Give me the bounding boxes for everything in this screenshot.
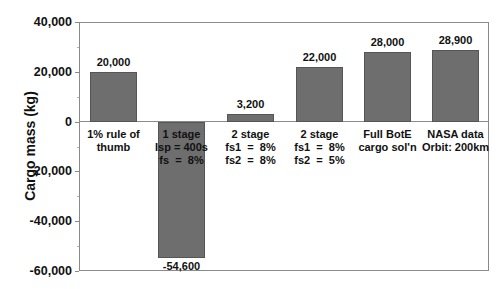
- y-tick-mark: [75, 221, 79, 222]
- y-minor-tick: [77, 97, 79, 98]
- bar-value-label: 20,000: [74, 56, 154, 68]
- bar-value-label: 22,000: [280, 51, 360, 63]
- y-tick-label: -60,000: [30, 264, 72, 278]
- zero-baseline: [79, 121, 489, 122]
- y-tick-mark: [75, 22, 79, 23]
- bar-value-label: -54,600: [142, 260, 222, 272]
- bar-value-label: 3,200: [211, 98, 291, 110]
- y-minor-tick: [77, 246, 79, 247]
- bar-chart: Cargo mass (kg) 40,00020,0000-20,000-40,…: [0, 0, 503, 289]
- y-tick-label: -20,000: [30, 164, 72, 178]
- y-tick-label: 40,000: [34, 15, 72, 29]
- y-tick-mark: [75, 171, 79, 172]
- y-tick-mark: [75, 72, 79, 73]
- y-minor-tick: [77, 47, 79, 48]
- y-tick-mark: [75, 271, 79, 272]
- bar: [364, 52, 411, 122]
- y-tick-mark: [75, 122, 79, 123]
- y-axis-label: Cargo mass (kg): [22, 86, 38, 206]
- bar-value-label: 28,900: [416, 34, 496, 46]
- bar: [227, 114, 274, 122]
- y-minor-tick: [77, 196, 79, 197]
- bar: [296, 67, 343, 122]
- category-label: 1 stage Isp = 400s fs = 8%: [142, 128, 222, 167]
- bar: [90, 72, 137, 122]
- bar: [432, 50, 479, 122]
- category-label: NASA data Orbit: 200km: [416, 128, 496, 154]
- y-tick-label: 20,000: [34, 65, 72, 79]
- y-tick-label: 0: [65, 115, 72, 129]
- category-label: 2 stage fs1 = 8% fs2 = 8%: [211, 128, 291, 167]
- y-tick-label: -40,000: [30, 214, 72, 228]
